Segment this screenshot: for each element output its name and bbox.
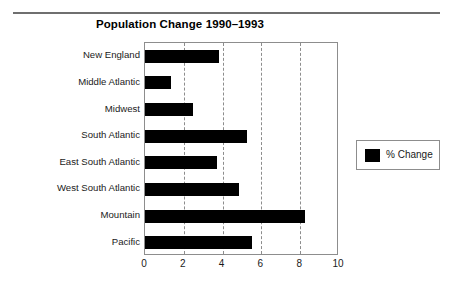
bar <box>145 103 193 116</box>
bar <box>145 76 171 89</box>
category-label: Midwest <box>6 103 140 114</box>
category-label: West South Atlantic <box>6 182 140 193</box>
category-label: East South Atlantic <box>6 156 140 167</box>
x-tick-label: 0 <box>141 258 147 269</box>
category-label: Middle Atlantic <box>6 76 140 87</box>
bar-row <box>145 123 337 150</box>
x-tick-label: 10 <box>332 258 343 269</box>
x-tick-label: 6 <box>258 258 264 269</box>
x-tick-label: 4 <box>219 258 225 269</box>
legend-label-percent-change: % Change <box>386 149 433 160</box>
category-label: Mountain <box>6 209 140 220</box>
x-tick-label: 2 <box>180 258 186 269</box>
bar <box>145 210 305 223</box>
bar-row <box>145 96 337 123</box>
category-label: New England <box>6 49 140 60</box>
bar-row <box>145 229 337 256</box>
bar <box>145 236 252 249</box>
bar-row <box>145 43 337 70</box>
caption-sliver <box>10 296 440 303</box>
bar-row <box>145 176 337 203</box>
category-label: South Atlantic <box>6 129 140 140</box>
y-axis-category-labels: New EnglandMiddle AtlanticMidwestSouth A… <box>2 42 140 255</box>
bar <box>145 50 219 63</box>
bar-row <box>145 150 337 177</box>
bar-row <box>145 203 337 230</box>
category-label: Pacific <box>6 236 140 247</box>
figure-page: Population Change 1990–1993 New EnglandM… <box>0 0 453 303</box>
plot-area <box>144 42 338 255</box>
bar <box>145 130 247 143</box>
bar <box>145 183 239 196</box>
x-tick-label: 8 <box>296 258 302 269</box>
bar <box>145 156 217 169</box>
bar-row <box>145 70 337 97</box>
chart-title: Population Change 1990–1993 <box>0 18 360 30</box>
header-rule <box>13 12 440 14</box>
legend: % Change <box>356 140 440 170</box>
legend-swatch-percent-change <box>365 149 380 162</box>
